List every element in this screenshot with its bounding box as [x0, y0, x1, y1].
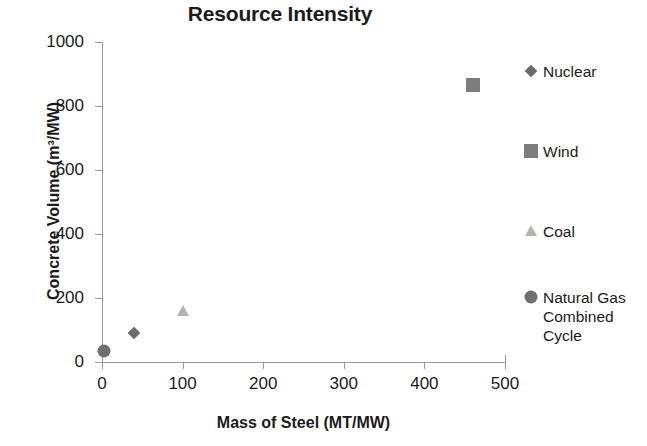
legend-swatch-shape	[524, 291, 537, 304]
chart-title: Resource Intensity	[0, 2, 560, 26]
circle-marker-icon	[524, 288, 537, 305]
legend-item-nuclear[interactable]: Nuclear	[524, 62, 596, 81]
legend-label: Wind	[543, 142, 578, 161]
x-tick-label: 200	[249, 374, 277, 394]
x-axis-line	[102, 362, 506, 363]
legend-item-coal[interactable]: Coal	[524, 222, 575, 241]
y-tick: 800	[95, 106, 102, 107]
diamond-marker-icon	[524, 62, 537, 79]
x-tick	[102, 362, 103, 369]
x-tick	[263, 362, 264, 369]
legend-label: Coal	[543, 222, 575, 241]
x-tick-label: 300	[330, 374, 358, 394]
x-tick-label: 100	[168, 374, 196, 394]
y-tick-label: 800	[56, 96, 84, 116]
y-tick: 0	[95, 362, 102, 363]
legend-item-wind[interactable]: Wind	[524, 142, 578, 161]
chart-legend: NuclearWindCoalNatural Gas Combined Cycl…	[524, 42, 647, 372]
y-axis-line	[102, 42, 103, 363]
triangle-marker-icon	[524, 222, 537, 239]
legend-swatch-shape	[524, 144, 538, 158]
y-tick: 1000	[95, 42, 102, 43]
legend-label: Nuclear	[543, 62, 596, 81]
y-tick-label: 0	[75, 352, 84, 372]
plot-area: 02004006008001000 0100200300400500	[102, 42, 505, 362]
x-tick-label: 500	[491, 374, 519, 394]
data-point-coal[interactable]	[177, 305, 189, 316]
square-marker-icon	[524, 142, 537, 159]
y-tick-label: 600	[56, 160, 84, 180]
y-tick-label: 1000	[46, 32, 84, 52]
legend-item-natural-gas-combined-cycle[interactable]: Natural Gas Combined Cycle	[524, 288, 647, 345]
x-tick	[505, 362, 506, 369]
y-tick-label: 200	[56, 288, 84, 308]
chart-figure: Resource Intensity Concrete Volume (m³/M…	[0, 0, 647, 446]
data-point-nuclear[interactable]	[128, 326, 141, 339]
y-tick: 400	[95, 234, 102, 235]
x-axis-title: Mass of Steel (MT/MW)	[102, 414, 505, 432]
x-tick-label: 0	[97, 374, 106, 394]
legend-swatch-shape	[525, 225, 537, 236]
x-tick	[183, 362, 184, 369]
y-tick: 200	[95, 298, 102, 299]
legend-label: Natural Gas Combined Cycle	[543, 288, 647, 345]
y-tick-label: 400	[56, 224, 84, 244]
cropped-caption-sliver	[8, 437, 628, 446]
x-tick	[424, 362, 425, 369]
legend-swatch-shape	[524, 65, 537, 78]
x-tick-label: 400	[410, 374, 438, 394]
data-point-natural-gas-combined-cycle[interactable]	[97, 344, 110, 357]
data-point-wind[interactable]	[466, 78, 480, 92]
y-tick: 600	[95, 170, 102, 171]
x-tick	[344, 362, 345, 369]
